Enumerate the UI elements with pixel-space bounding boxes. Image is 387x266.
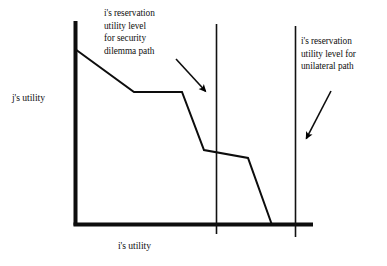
x-axis-label: i's utility <box>118 240 208 253</box>
reference-lines-group <box>217 24 296 237</box>
y-axis-label: j's utility <box>12 92 74 105</box>
unilateral-path-annotation-label: i's reservation utility level for unilat… <box>301 35 387 73</box>
security-dilemma-arrow-icon <box>176 59 206 91</box>
unilateral-path-arrow-icon <box>306 91 331 139</box>
utility-frontier-curve <box>75 49 272 225</box>
utility-frontier-diagram: i's reservation utility level for securi… <box>0 0 387 266</box>
security-dilemma-annotation-label: i's reservation utility level for securi… <box>104 7 196 57</box>
